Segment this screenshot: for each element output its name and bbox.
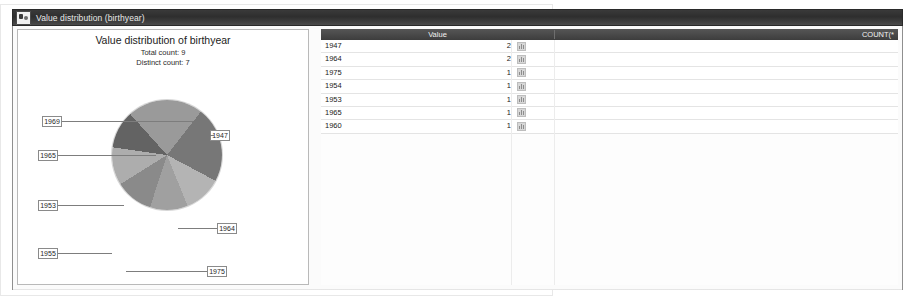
total-count-label: Total count: 9 — [18, 48, 308, 57]
table-row[interactable]: 19541 — [321, 80, 898, 93]
pie-leader-line — [210, 135, 214, 136]
pie-label: 1964 — [217, 223, 237, 234]
chart-header: Value distribution of birthyear Total co… — [18, 34, 308, 67]
bar-chart-icon[interactable] — [517, 55, 526, 64]
chart-panel: Value distribution of birthyear Total co… — [17, 29, 309, 285]
grid-line-vertical-2 — [554, 40, 555, 285]
table-row[interactable]: 19651 — [321, 107, 898, 120]
table-row[interactable]: 19601 — [321, 120, 898, 133]
pie-label: 1953 — [38, 200, 58, 211]
column-divider[interactable] — [554, 30, 555, 39]
bar-chart-icon[interactable] — [517, 82, 526, 91]
table-rows: 19472196421975119541195311965119601 — [321, 40, 898, 134]
table-row[interactable]: 19531 — [321, 94, 898, 107]
cell-value: 1947 — [325, 40, 342, 52]
chart-title: Value distribution of birthyear — [18, 34, 308, 46]
pie-label: 1955 — [38, 248, 58, 259]
cell-count: 2 — [421, 53, 511, 65]
pie-label: 1969 — [42, 116, 62, 127]
cell-count: 1 — [421, 94, 511, 106]
cell-count: 2 — [421, 40, 511, 52]
cell-count: 1 — [421, 120, 511, 132]
pie-chart: 1947196419751955195319651969 — [18, 78, 309, 283]
bar-chart-icon[interactable] — [517, 108, 526, 117]
pie-leader-line — [58, 253, 112, 254]
cell-value: 1954 — [325, 80, 342, 92]
column-header-value[interactable]: Value — [321, 29, 554, 40]
bar-chart-icon[interactable] — [517, 122, 526, 131]
pie-leader-line — [178, 228, 217, 229]
bar-chart-icon[interactable] — [517, 68, 526, 77]
cell-count: 1 — [421, 80, 511, 92]
pie-label: 1965 — [38, 150, 58, 161]
pie-leader-line — [62, 121, 193, 122]
cell-value: 1965 — [325, 107, 342, 119]
window-titlebar[interactable]: Value distribution (birthyear) — [12, 9, 903, 26]
cell-value: 1975 — [325, 67, 342, 79]
cell-value: 1964 — [325, 53, 342, 65]
grid-line-vertical — [511, 40, 512, 285]
pie-leader-line — [58, 205, 124, 206]
window-content: Value distribution of birthyear Total co… — [13, 26, 902, 289]
value-table[interactable]: Value COUNT(* 19472196421975119541195311… — [321, 29, 898, 285]
bar-chart-icon[interactable] — [517, 95, 526, 104]
pie-leader-line — [126, 271, 207, 272]
distinct-count-label: Distinct count: 7 — [18, 58, 308, 67]
table-row[interactable]: 19642 — [321, 53, 898, 66]
cards-icon — [16, 11, 31, 25]
pie-label: 1975 — [207, 266, 227, 277]
cell-count: 1 — [421, 107, 511, 119]
bar-chart-icon[interactable] — [517, 42, 526, 51]
table-row[interactable]: 19472 — [321, 40, 898, 53]
cell-value: 1960 — [325, 120, 342, 132]
cell-value: 1953 — [325, 94, 342, 106]
cell-count: 1 — [421, 67, 511, 79]
pie-leader-line — [58, 155, 156, 156]
column-header-count[interactable]: COUNT(* — [554, 29, 898, 40]
window-title: Value distribution (birthyear) — [36, 13, 145, 23]
table-row[interactable]: 19751 — [321, 67, 898, 80]
